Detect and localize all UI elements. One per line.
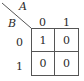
karnaugh-map: A B 0 1 0 1 1 0 0 0 xyxy=(0,0,84,81)
cell-b0-a0: 1 xyxy=(32,29,55,52)
row-header-1: 1 xyxy=(16,61,23,72)
col-header-1: 1 xyxy=(63,17,70,28)
cell-b0-a1: 0 xyxy=(55,29,78,52)
col-header-0: 0 xyxy=(39,17,46,28)
cell-b1-a0: 0 xyxy=(32,52,55,75)
col-variable-label: A xyxy=(19,1,27,12)
kmap-grid: 1 0 0 0 xyxy=(31,28,79,76)
cell-b1-a1: 0 xyxy=(55,52,78,75)
row-variable-label: B xyxy=(8,18,16,29)
row-header-0: 0 xyxy=(16,37,23,48)
